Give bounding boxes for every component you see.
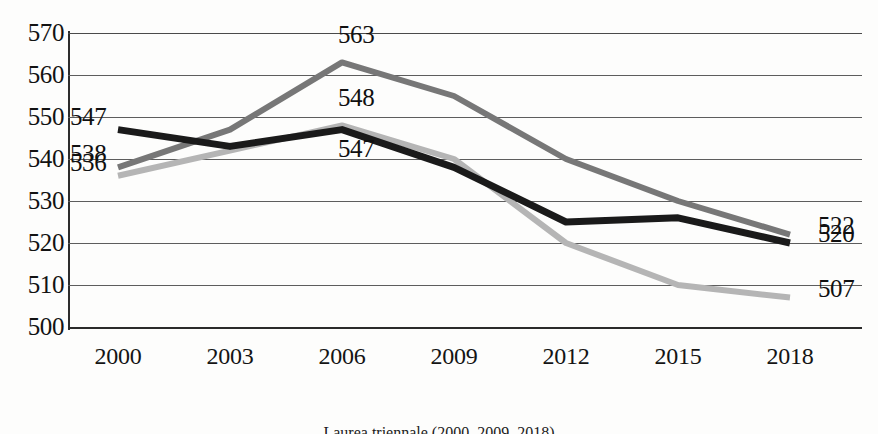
chart-page: 570560550540530520510500 200020032006200… [0,0,878,434]
figure-caption: Laurea triennale (2000, 2009, 2018) [0,424,878,434]
data-label-547-2006: 547 [338,136,374,161]
series-lines [0,0,878,434]
data-label-507-2018: 507 [818,276,854,301]
data-label-547-2000: 547 [70,104,106,129]
data-label-548-2006: 548 [338,85,374,110]
data-label-520-2018: 520 [818,221,854,246]
figure-caption-text: Laurea triennale (2000, 2009, 2018) [0,424,878,434]
series-black [118,130,790,243]
series-dark-gray [118,62,790,234]
data-label-536-2000: 536 [70,150,106,175]
data-label-563-2006: 563 [338,22,374,47]
series-light-gray [118,125,790,297]
